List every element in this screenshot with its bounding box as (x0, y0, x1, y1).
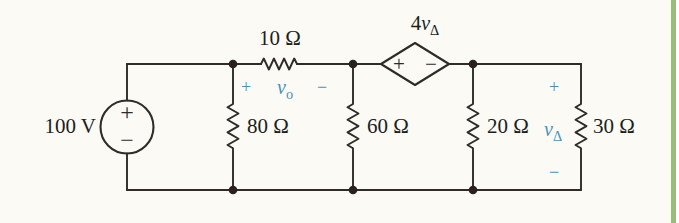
dependent-source-minus-sign: − (425, 52, 437, 76)
junction-dot (349, 186, 358, 195)
vo-minus-sign: − (317, 78, 327, 97)
dependent-source-diamond (381, 43, 449, 85)
vo-annotation: vo (277, 76, 293, 102)
circuit-figure: + − + − 100 V 10 Ω 4vΔ 80 Ω 60 (0, 0, 679, 223)
junction-dot (229, 60, 238, 69)
resistor-label-20ohm: 20 Ω (487, 115, 529, 137)
vdelta-annotation: vΔ (544, 118, 562, 144)
dependent-source-plus-sign: + (393, 52, 405, 76)
resistor-80ohm (228, 64, 239, 190)
dependent-source-label: 4vΔ (397, 12, 453, 38)
dependent-source-subscript: Δ (430, 22, 439, 38)
resistor-20ohm (468, 64, 479, 190)
junction-dot (469, 60, 478, 69)
vdelta-plus-sign: + (549, 78, 559, 97)
circuit-drawing: + − + − (0, 0, 679, 223)
resistor-10ohm (261, 59, 297, 70)
source-plus-sign: + (120, 99, 134, 125)
vo-variable: v (277, 76, 286, 98)
junction-dot (229, 186, 238, 195)
source-value-label: 100 V (34, 115, 96, 137)
dependent-source-variable: v (421, 12, 430, 34)
vdelta-subscript: Δ (553, 128, 562, 144)
dependent-source-coefficient: 4 (411, 11, 422, 35)
resistor-60ohm (348, 64, 359, 190)
resistor-label-10ohm: 10 Ω (252, 27, 308, 49)
vdelta-minus-sign: − (549, 163, 559, 182)
resistor-label-60ohm: 60 Ω (367, 115, 409, 137)
dependent-source: + − (381, 43, 449, 85)
resistor-label-80ohm: 80 Ω (247, 115, 289, 137)
resistor-30ohm (576, 64, 587, 190)
vdelta-variable: v (544, 118, 553, 140)
independent-voltage-source: + − (101, 99, 154, 154)
vo-subscript: o (286, 86, 293, 102)
vo-plus-sign: + (241, 78, 251, 97)
source-minus-sign: − (120, 127, 134, 153)
junction-dot (349, 60, 358, 69)
resistor-label-30ohm: 30 Ω (593, 115, 635, 137)
junction-dot (469, 186, 478, 195)
